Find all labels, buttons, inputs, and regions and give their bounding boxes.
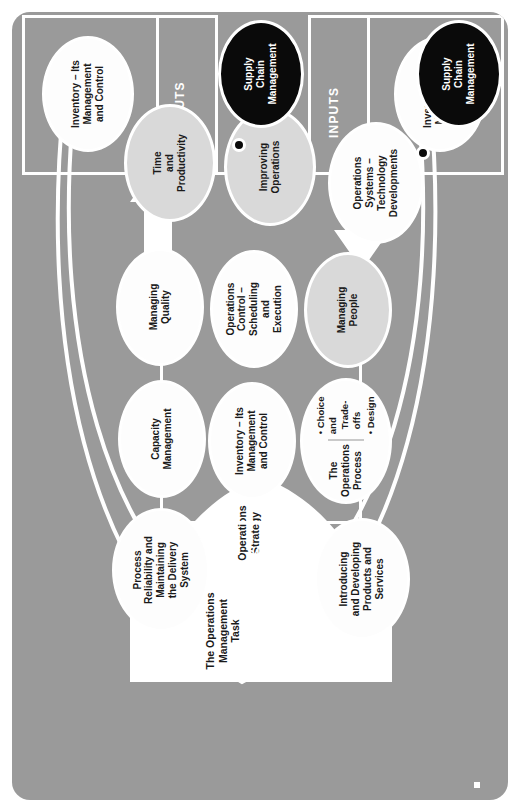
supply-chain-management-inputs-circle: SupplyChainManagement — [416, 20, 502, 128]
circle-capacity-management: Capacity Management — [118, 380, 206, 498]
circle-operations-control: Operations Control – Scheduling and Exec… — [210, 250, 298, 368]
inputs-label: INPUTS — [328, 87, 341, 138]
circle-operations-systems: Operations Systems – Technology Developm… — [328, 122, 424, 244]
diagram-panel: The Operations Management Task Operation… — [12, 12, 508, 800]
circle-managing-quality: Managing Quality — [116, 248, 204, 366]
figure-page: The Operations Management Task Operation… — [0, 0, 520, 812]
supply-chain-inputs-text: Supply — [441, 43, 453, 104]
circle-process-reliability: Process Reliability and Maintaining the … — [112, 508, 210, 632]
supply-chain-inputs-text: Chain — [453, 43, 465, 104]
supply-chain-circle-bottom — [232, 138, 246, 152]
circle-time-productivity: Time and Productivity — [124, 104, 216, 222]
inputs-box — [474, 782, 480, 788]
circle-operations-process: The Operations Process • Choice and Trad… — [300, 378, 392, 504]
circle-introducing-developing: Introducing and Developing Products and … — [314, 518, 410, 640]
circle-managing-people: Managing People — [304, 252, 392, 368]
supply-chain-management-outputs-circle: Supply Chain Management — [218, 20, 304, 128]
outputs-inventory-circle: Inventory – Its Management and Control — [42, 36, 134, 152]
supply-chain-inputs-text: Management — [465, 43, 477, 104]
circle-inventory-management: Inventory – Its Management and Control — [208, 382, 296, 500]
rotated-figure-canvas: The Operations Management Task Operation… — [12, 12, 508, 800]
supply-chain-management-inputs — [416, 146, 430, 160]
task-label: The Operations Management Task — [204, 586, 242, 676]
